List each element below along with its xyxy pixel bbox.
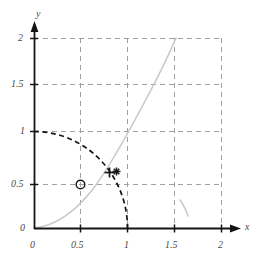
plot-figure: 2 1.5 1 0.5 0 0 0.5 1 1.5 2 y x: [0, 0, 257, 259]
y-tick-label-0.5: 0.5: [11, 179, 24, 189]
x-tick-label-1.5: 1.5: [165, 240, 178, 250]
x-tick-label-0: 0: [30, 240, 35, 250]
y-axis-label: y: [36, 9, 40, 19]
objective-curve: [34, 38, 188, 228]
y-axis-arrowhead: [31, 21, 39, 32]
x-axis-arrowhead: [230, 225, 241, 233]
y-tick-label-2: 2: [18, 33, 23, 43]
objective-curve-path: [34, 38, 176, 228]
x-tick-label-1: 1: [124, 240, 129, 250]
x-tick-label-2: 2: [218, 240, 223, 250]
x-axis-label: x: [245, 222, 249, 232]
axes: [30, 21, 241, 233]
plot-canvas: [0, 0, 257, 259]
objective-curve-lower-branch-path: [180, 200, 188, 216]
y-tick-label-1.5: 1.5: [11, 79, 24, 89]
y-tick-label-0: 0: [20, 223, 25, 233]
y-tick-label-1: 1: [20, 126, 25, 136]
asterisk-marker: [113, 168, 121, 176]
x-tick-label-0.5: 0.5: [71, 240, 84, 250]
